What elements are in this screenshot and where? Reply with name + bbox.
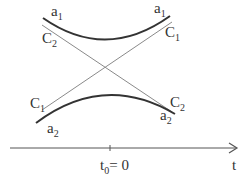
- hyperbola-diagram: a1 a1 C2 C1 C1 a2 C2 a2 t0= 0 t: [0, 0, 251, 180]
- label-c1-right: C1: [165, 24, 180, 43]
- diagram-canvas: a1 a1 C2 C1 C1 a2 C2 a2 t0= 0 t: [0, 0, 251, 180]
- label-t0: t0= 0: [100, 157, 129, 176]
- label-c2-right: C2: [170, 94, 185, 113]
- label-a2-left: a2: [47, 120, 59, 139]
- label-axis-t: t: [232, 157, 237, 173]
- line-c1-ascending: [42, 22, 172, 110]
- label-c1-left: C1: [30, 95, 45, 114]
- label-a1-right: a1: [154, 0, 166, 19]
- label-a1-left: a1: [51, 3, 63, 22]
- label-c2-left: C2: [42, 30, 57, 49]
- curve-a2-lower: [36, 95, 175, 123]
- line-c2-descending: [42, 25, 172, 112]
